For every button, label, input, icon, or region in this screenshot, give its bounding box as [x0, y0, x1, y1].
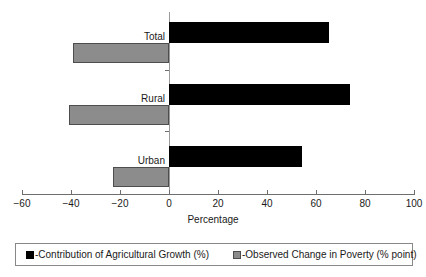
black-square-icon — [26, 251, 34, 259]
legend: -Contribution of Agricultural Growth (%)… — [15, 243, 413, 266]
x-tick-label: 100 — [394, 198, 426, 209]
category-label-total: Total — [95, 31, 165, 42]
x-axis-tick — [365, 190, 366, 194]
legend-entry-contribution: -Contribution of Agricultural Growth (%) — [26, 249, 209, 261]
x-tick-label: 60 — [296, 198, 336, 209]
x-axis-tick — [414, 190, 415, 194]
category-axis-tick — [165, 131, 169, 132]
gray-square-icon — [233, 251, 241, 259]
x-axis-tick — [316, 190, 317, 194]
bar-urban-contribution — [169, 146, 302, 167]
x-tick-label: 0 — [149, 198, 189, 209]
bar-urban-poverty — [113, 167, 169, 187]
x-tick-label: −20 — [100, 198, 140, 209]
x-axis-tick — [218, 190, 219, 194]
horizontal-bar-chart: Total Rural Urban −60 −40 −20 0 20 40 60… — [0, 0, 426, 277]
legend-label-contribution: -Contribution of Agricultural Growth (%) — [35, 249, 209, 261]
x-tick-label: −40 — [51, 198, 91, 209]
bar-total-poverty — [73, 43, 169, 63]
x-tick-label: 40 — [247, 198, 287, 209]
x-axis-line — [22, 194, 415, 195]
x-axis-title: Percentage — [0, 214, 426, 226]
x-axis-tick — [267, 190, 268, 194]
bar-total-contribution — [169, 22, 329, 43]
bar-rural-poverty — [69, 105, 169, 125]
x-tick-label: 80 — [345, 198, 385, 209]
x-axis-tick — [120, 190, 121, 194]
x-axis-tick — [169, 190, 170, 194]
bar-rural-contribution — [169, 84, 350, 105]
legend-label-poverty: -Observed Change in Poverty (% point) — [242, 249, 417, 261]
legend-entry-poverty: -Observed Change in Poverty (% point) — [233, 249, 417, 261]
x-tick-label: 20 — [198, 198, 238, 209]
category-label-urban: Urban — [95, 155, 165, 166]
plot-area: Total Rural Urban −60 −40 −20 0 20 40 60… — [0, 0, 426, 200]
x-axis-tick — [71, 190, 72, 194]
x-axis-tick — [22, 190, 23, 194]
category-axis-tick — [165, 70, 169, 71]
category-label-rural: Rural — [95, 93, 165, 104]
x-tick-label: −60 — [2, 198, 42, 209]
